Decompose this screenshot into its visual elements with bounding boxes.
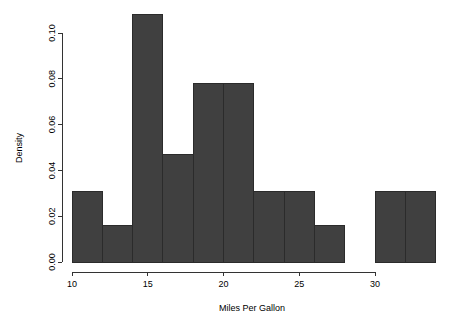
histogram-bar	[102, 225, 132, 262]
y-axis-tick-label: 0.10	[47, 24, 57, 42]
x-axis-tick-label: 15	[143, 279, 153, 289]
histogram-bar	[193, 83, 223, 262]
histogram-bar	[133, 15, 163, 262]
y-axis-title: Density	[14, 132, 24, 163]
histogram-bar	[72, 191, 102, 262]
chart-canvas: 0.000.020.040.060.080.10 1015202530 Mile…	[0, 0, 464, 326]
y-axis-tick-label: 0.04	[47, 162, 57, 180]
y-axis-tick-label: 0.00	[47, 253, 57, 271]
y-axis-tick-label: 0.08	[47, 70, 57, 88]
y-axis-tick-label: 0.02	[47, 207, 57, 225]
x-axis-tick-label: 10	[67, 279, 77, 289]
histogram-bar	[405, 191, 435, 262]
histogram-bar	[254, 191, 284, 262]
y-axis-tick-label: 0.06	[47, 116, 57, 134]
x-axis-tick-label: 25	[294, 279, 304, 289]
histogram-bar	[314, 225, 344, 262]
x-axis-title: Miles Per Gallon	[219, 303, 285, 313]
histogram-bar	[163, 154, 193, 262]
histogram-bar	[375, 191, 405, 262]
x-axis-tick-label: 20	[218, 279, 228, 289]
histogram-plot: 0.000.020.040.060.080.10 1015202530 Mile…	[0, 0, 464, 326]
x-axis-tick-label: 30	[370, 279, 380, 289]
histogram-bar	[224, 83, 254, 262]
histogram-bar	[284, 191, 314, 262]
